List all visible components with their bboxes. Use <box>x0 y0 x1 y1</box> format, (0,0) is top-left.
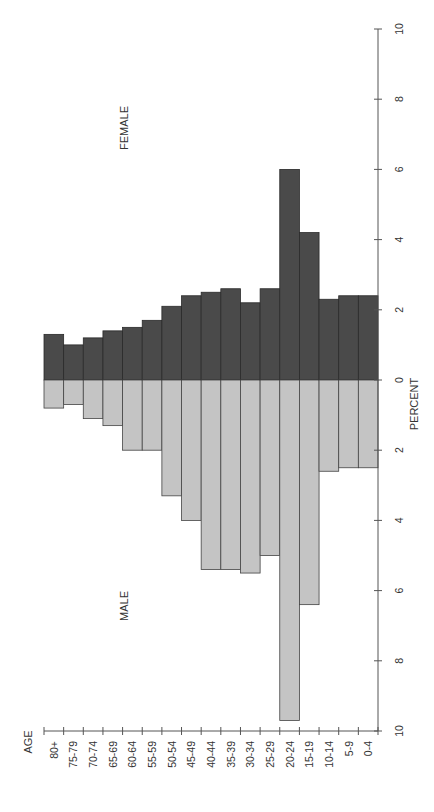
male-bar-50-54 <box>162 380 182 496</box>
female-bar-30-34 <box>240 303 260 380</box>
age-tick-label: 10-14 <box>323 741 335 768</box>
male-bar-65-69 <box>103 380 123 426</box>
female-bar-65-69 <box>103 331 123 380</box>
female-bar-20-24 <box>280 169 300 380</box>
male-bar-70-74 <box>83 380 103 419</box>
male-bar-15-19 <box>299 380 319 605</box>
male-label: MALE <box>118 591 130 621</box>
percent-axis-title: PERCENT <box>408 377 420 430</box>
population-pyramid-chart: 80+75-7970-7465-6960-6455-5950-5445-4940… <box>0 0 434 812</box>
female-bar-25-29 <box>260 289 280 380</box>
age-tick-label: 5-9 <box>343 741 355 756</box>
male-bar-80+ <box>44 380 64 408</box>
percent-tick-label: 8 <box>393 96 405 102</box>
male-bar-55-59 <box>142 380 162 450</box>
age-axis-title: AGE <box>22 730 34 753</box>
female-bar-40-44 <box>201 292 221 380</box>
age-tick-label: 20-24 <box>284 741 296 768</box>
age-tick-label: 65-69 <box>107 741 119 768</box>
male-bar-45-49 <box>182 380 202 520</box>
bars-group <box>44 169 378 720</box>
percent-tick-label: 4 <box>393 517 405 523</box>
age-tick-label: 30-34 <box>244 741 256 768</box>
male-bar-35-39 <box>221 380 241 570</box>
male-bar-25-29 <box>260 380 280 556</box>
female-bar-55-59 <box>142 320 162 380</box>
percent-tick-label: 2 <box>393 447 405 453</box>
percent-tick-label: 0 <box>393 377 405 383</box>
age-tick-label: 25-29 <box>264 741 276 768</box>
percent-tick-label: 4 <box>393 237 405 243</box>
male-bar-40-44 <box>201 380 221 570</box>
male-bar-20-24 <box>280 380 300 720</box>
percent-tick-label: 6 <box>393 166 405 172</box>
age-tick-label: 45-49 <box>185 741 197 768</box>
female-bar-15-19 <box>299 233 319 380</box>
percent-tick-label: 6 <box>393 588 405 594</box>
age-tick-label: 0-4 <box>362 741 374 756</box>
age-tick-label: 35-39 <box>225 741 237 768</box>
age-tick-label: 15-19 <box>303 741 315 768</box>
female-label: FEMALE <box>118 106 130 150</box>
female-bar-10-14 <box>319 299 339 380</box>
age-tick-label: 50-54 <box>166 741 178 768</box>
percent-tick-label: 8 <box>393 658 405 664</box>
percent-tick-label: 10 <box>393 725 405 737</box>
female-bar-45-49 <box>182 296 202 380</box>
male-bar-60-64 <box>123 380 143 450</box>
age-tick-label: 75-79 <box>67 741 79 768</box>
age-tick-label: 70-74 <box>87 741 99 768</box>
male-bar-0-4 <box>358 380 378 468</box>
female-bar-70-74 <box>83 338 103 380</box>
female-bar-80+ <box>44 334 64 380</box>
age-tick-label: 60-64 <box>126 741 138 768</box>
male-bar-30-34 <box>240 380 260 573</box>
female-bar-50-54 <box>162 306 182 380</box>
age-tick-label: 80+ <box>48 741 60 759</box>
percent-tick-label: 2 <box>393 307 405 313</box>
age-tick-label: 55-59 <box>146 741 158 768</box>
female-bar-0-4 <box>358 296 378 380</box>
female-bar-60-64 <box>123 327 143 380</box>
percent-tick-label: 10 <box>393 23 405 35</box>
female-bar-5-9 <box>339 296 359 380</box>
female-bar-75-79 <box>64 345 84 380</box>
male-bar-5-9 <box>339 380 359 468</box>
male-bar-75-79 <box>64 380 84 405</box>
female-bar-35-39 <box>221 289 241 380</box>
male-bar-10-14 <box>319 380 339 471</box>
age-tick-label: 40-44 <box>205 741 217 768</box>
